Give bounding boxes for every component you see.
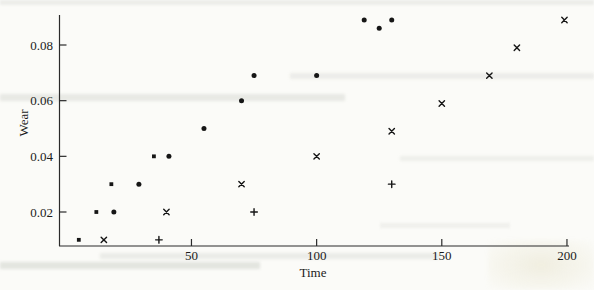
data-point-plus xyxy=(388,181,395,188)
data-point-plus xyxy=(251,209,258,216)
data-point-x-cross xyxy=(239,181,244,186)
wear-time-scatter-plot: 501001502000.020.040.060.08 xyxy=(0,0,594,290)
data-point-x-cross xyxy=(164,209,169,214)
data-point-filled-square xyxy=(77,238,81,242)
data-point-filled-circle xyxy=(389,17,394,22)
y-axis-tick-label: 0.04 xyxy=(30,149,53,164)
data-point-x-cross xyxy=(101,237,106,242)
data-point-filled-square xyxy=(152,154,156,158)
data-point-x-cross xyxy=(314,154,319,159)
data-point-filled-circle xyxy=(166,154,171,159)
y-axis-tick-label: 0.06 xyxy=(30,93,53,108)
x-axis-tick-label: 150 xyxy=(432,248,452,263)
x-axis-title: Time xyxy=(300,265,327,281)
data-point-filled-square xyxy=(109,182,113,186)
data-point-x-cross xyxy=(487,73,492,78)
data-point-filled-circle xyxy=(362,17,367,22)
data-point-filled-circle xyxy=(314,73,319,78)
data-point-plus xyxy=(156,237,163,244)
data-point-filled-circle xyxy=(201,126,206,131)
y-axis-tick-label: 0.08 xyxy=(30,38,53,53)
y-axis-tick-label: 0.02 xyxy=(30,205,53,220)
x-axis-tick-label: 50 xyxy=(185,248,198,263)
data-point-filled-circle xyxy=(239,98,244,103)
data-point-x-cross xyxy=(389,129,394,134)
data-point-x-cross xyxy=(562,17,567,22)
data-point-filled-circle xyxy=(377,26,382,31)
data-point-filled-circle xyxy=(111,210,116,215)
data-point-filled-circle xyxy=(252,73,257,78)
data-point-x-cross xyxy=(439,101,444,106)
x-axis-tick-label: 100 xyxy=(307,248,327,263)
x-axis-tick-label: 200 xyxy=(557,248,577,263)
data-point-filled-circle xyxy=(136,182,141,187)
data-point-filled-square xyxy=(94,210,98,214)
data-point-x-cross xyxy=(514,45,519,50)
y-axis-title: Wear xyxy=(16,109,32,136)
figure-page: 501001502000.020.040.060.08 Time Wear xyxy=(0,0,594,290)
